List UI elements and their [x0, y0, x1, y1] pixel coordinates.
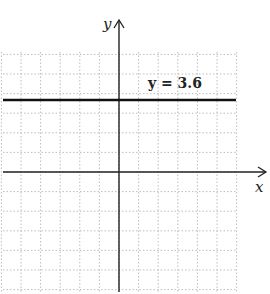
- x-axis-label: x: [255, 178, 264, 196]
- y-axis-label: y: [102, 15, 112, 33]
- coordinate-plane: y x y = 3.6: [0, 0, 270, 294]
- line-label: y = 3.6: [147, 75, 202, 91]
